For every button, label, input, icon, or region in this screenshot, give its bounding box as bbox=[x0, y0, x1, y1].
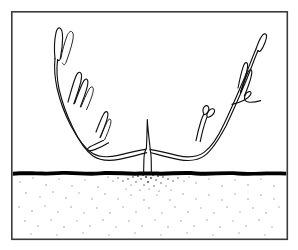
illustration-figure: Line drawing of a dormant, pruned shrub … bbox=[0, 0, 298, 250]
illustration-canvas bbox=[0, 0, 298, 250]
illustration-border bbox=[12, 12, 288, 240]
